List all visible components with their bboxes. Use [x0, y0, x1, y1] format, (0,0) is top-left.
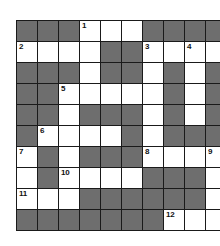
crossword-cell-block	[101, 105, 122, 126]
crossword-cell-block	[185, 189, 206, 210]
crossword-cell-open[interactable]	[164, 147, 185, 168]
crossword-cell-block	[101, 63, 122, 84]
crossword-cell-open[interactable]	[101, 168, 122, 189]
crossword-cell-open[interactable]	[38, 189, 59, 210]
crossword-cell-open[interactable]: 6	[38, 126, 59, 147]
crossword-cell-block	[59, 210, 80, 231]
crossword-cell-open[interactable]	[59, 147, 80, 168]
crossword-cell-block	[122, 126, 143, 147]
crossword-cell-open[interactable]: 10	[59, 168, 80, 189]
crossword-cell-block	[80, 210, 101, 231]
crossword-grid: 123456789101112	[16, 20, 220, 231]
crossword-cell-open[interactable]	[143, 105, 164, 126]
crossword-cell-block	[164, 21, 185, 42]
crossword-page: 123456789101112	[0, 0, 220, 246]
crossword-cell-open[interactable]: 12	[164, 210, 185, 231]
crossword-cell-block	[17, 105, 38, 126]
clue-number: 8	[145, 147, 149, 157]
crossword-cell-block	[164, 63, 185, 84]
crossword-cell-open[interactable]	[80, 63, 101, 84]
crossword-cell-open[interactable]	[143, 84, 164, 105]
crossword-cell-open[interactable]	[80, 126, 101, 147]
crossword-cell-open[interactable]	[101, 126, 122, 147]
crossword-cell-open[interactable]: 3	[143, 42, 164, 63]
crossword-cell-block	[38, 210, 59, 231]
crossword-cell-block	[143, 21, 164, 42]
crossword-cell-open[interactable]	[164, 42, 185, 63]
crossword-cell-block	[80, 105, 101, 126]
crossword-cell-block	[38, 147, 59, 168]
crossword-cell-block	[164, 168, 185, 189]
crossword-cell-block	[101, 189, 122, 210]
crossword-cell-open[interactable]: 9	[206, 147, 220, 168]
crossword-cell-open[interactable]	[122, 168, 143, 189]
crossword-cell-open[interactable]: 5	[59, 84, 80, 105]
crossword-cell-block	[185, 168, 206, 189]
crossword-cell-open[interactable]	[122, 21, 143, 42]
clue-number: 2	[19, 42, 23, 52]
crossword-cell-open[interactable]: 8	[143, 147, 164, 168]
crossword-cell-open[interactable]	[101, 84, 122, 105]
crossword-cell-block	[164, 84, 185, 105]
crossword-cell-open[interactable]	[59, 105, 80, 126]
crossword-cell-open[interactable]	[101, 21, 122, 42]
crossword-cell-open[interactable]	[17, 168, 38, 189]
crossword-cell-open[interactable]	[122, 84, 143, 105]
crossword-cell-open[interactable]	[80, 84, 101, 105]
crossword-cell-open[interactable]	[185, 210, 206, 231]
clue-number: 11	[19, 189, 27, 199]
crossword-cell-block	[38, 105, 59, 126]
crossword-cell-open[interactable]	[185, 84, 206, 105]
crossword-cell-block	[17, 63, 38, 84]
crossword-cell-block	[59, 63, 80, 84]
crossword-cell-block	[206, 63, 220, 84]
crossword-cell-block	[101, 210, 122, 231]
crossword-cell-open[interactable]	[206, 210, 220, 231]
crossword-cell-block	[143, 168, 164, 189]
crossword-cell-open[interactable]	[143, 63, 164, 84]
clue-number: 5	[61, 84, 65, 94]
crossword-cell-open[interactable]: 11	[17, 189, 38, 210]
crossword-cell-open[interactable]: 4	[185, 42, 206, 63]
crossword-cell-open[interactable]	[80, 42, 101, 63]
crossword-cell-open[interactable]	[38, 42, 59, 63]
clue-number: 4	[187, 42, 191, 52]
crossword-cell-block	[206, 126, 220, 147]
crossword-cell-block	[122, 105, 143, 126]
crossword-cell-block	[122, 63, 143, 84]
crossword-cell-block	[143, 189, 164, 210]
crossword-cell-block	[164, 189, 185, 210]
crossword-cell-open[interactable]	[185, 63, 206, 84]
crossword-cell-open[interactable]	[206, 168, 220, 189]
crossword-cell-block	[206, 21, 220, 42]
crossword-cell-block	[38, 21, 59, 42]
crossword-cell-open[interactable]	[59, 42, 80, 63]
crossword-cell-block	[59, 21, 80, 42]
clue-number: 10	[61, 168, 69, 178]
clue-number: 3	[145, 42, 149, 52]
crossword-cell-open[interactable]: 7	[17, 147, 38, 168]
crossword-cell-open[interactable]	[206, 189, 220, 210]
crossword-cell-block	[122, 42, 143, 63]
crossword-cell-block	[164, 105, 185, 126]
crossword-cell-open[interactable]	[59, 189, 80, 210]
clue-number: 1	[82, 21, 86, 31]
crossword-cell-block	[101, 42, 122, 63]
crossword-cell-open[interactable]	[206, 42, 220, 63]
clue-number: 7	[19, 147, 23, 157]
clue-number: 12	[166, 210, 174, 220]
crossword-cell-open[interactable]	[185, 147, 206, 168]
crossword-cell-block	[206, 105, 220, 126]
crossword-cell-open[interactable]: 1	[80, 21, 101, 42]
crossword-cell-open[interactable]	[80, 168, 101, 189]
crossword-cell-block	[143, 210, 164, 231]
crossword-cell-open[interactable]	[143, 126, 164, 147]
crossword-cell-block	[122, 189, 143, 210]
crossword-cell-open[interactable]	[59, 126, 80, 147]
crossword-cell-block	[206, 84, 220, 105]
crossword-cell-open[interactable]: 2	[17, 42, 38, 63]
crossword-cell-block	[38, 63, 59, 84]
clue-number: 6	[40, 126, 44, 136]
crossword-cell-open[interactable]	[185, 105, 206, 126]
crossword-cell-block	[185, 126, 206, 147]
